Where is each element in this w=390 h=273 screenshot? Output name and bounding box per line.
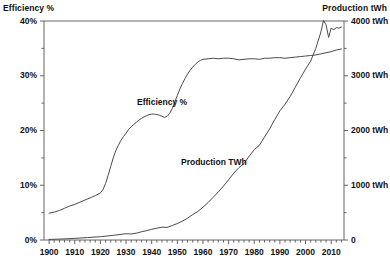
series-label-production: Production TWh [181,157,247,167]
right-tick-label: 0 [351,235,356,245]
left-tick-label: 40% [0,16,37,26]
right-tick-label: 3000 tWh [351,70,388,80]
axis-ticks [40,21,348,244]
right-tick-label: 2000 tWh [351,125,388,135]
data-series [49,20,341,239]
plot-frame [44,21,344,240]
chart-container: Efficiency % Production tWh 0%10%20%30%4… [0,0,390,273]
left-tick-label: 20% [0,125,37,135]
bottom-tick-label: 2010 [311,247,351,257]
left-tick-label: 30% [0,70,37,80]
left-tick-label: 10% [0,180,37,190]
right-tick-label: 1000 tWh [351,180,388,190]
right-tick-label: 4000 tWh [351,16,388,26]
plot-area [0,0,390,273]
series-label-efficiency: Efficiency % [137,97,187,107]
left-tick-label: 0% [0,235,37,245]
